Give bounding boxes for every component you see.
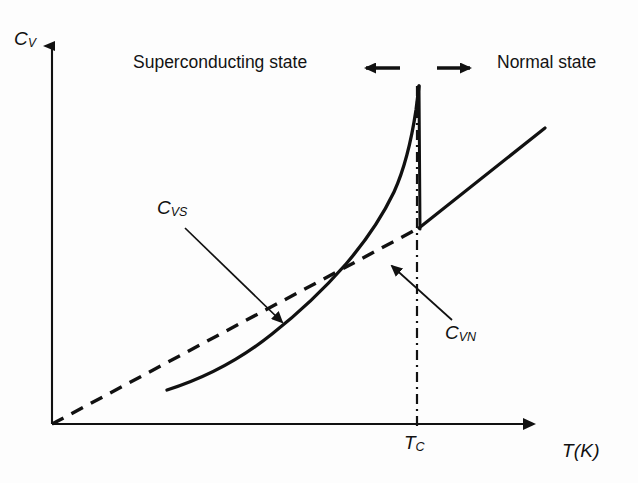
tc-label-text: T	[404, 432, 416, 453]
figure-container: CV T(K) TC CVS CVN Superconducting state…	[0, 0, 638, 483]
cvs-curve	[167, 86, 419, 390]
cvn-curve-label: CVN	[445, 322, 476, 344]
cvs-label-subscript: VS	[171, 205, 188, 219]
cvn-solid-line	[419, 128, 545, 228]
cvs-curve-label: CVS	[157, 197, 187, 219]
tc-label-subscript: C	[416, 440, 425, 454]
normal-state-label: Normal state	[497, 52, 596, 73]
cvn-label-text: C	[445, 322, 459, 343]
y-axis-label: CV	[14, 28, 36, 50]
y-axis-label-subscript: V	[28, 36, 36, 50]
cvs-leader-arrow	[185, 228, 282, 322]
cvn-leader-arrow	[392, 266, 452, 320]
superconducting-state-label: Superconducting state	[133, 52, 307, 73]
cvs-discontinuity-drop	[419, 86, 420, 229]
cvs-label-text: C	[157, 197, 171, 218]
y-axis-label-text: C	[14, 28, 28, 49]
cvn-label-subscript: VN	[459, 330, 476, 344]
tc-tick-label: TC	[404, 432, 425, 454]
x-axis-label: T(K)	[562, 440, 600, 462]
cvn-dashed-line	[52, 228, 419, 424]
